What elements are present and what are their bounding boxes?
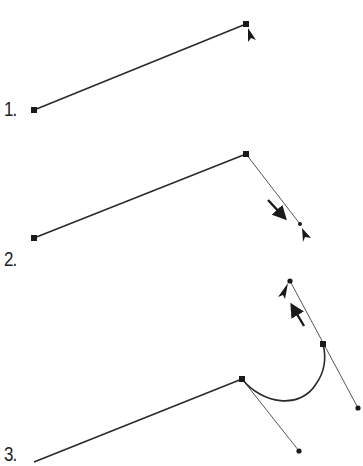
anchor-point[interactable] bbox=[239, 376, 245, 382]
direction-handle-point[interactable] bbox=[296, 448, 301, 453]
cursor-arrow-icon bbox=[278, 283, 288, 299]
panel-1 bbox=[31, 21, 256, 113]
anchor-point[interactable] bbox=[31, 235, 37, 241]
step-label-1: 1. bbox=[4, 98, 16, 121]
drag-direction-arrow-icon bbox=[294, 309, 304, 326]
direction-handle-point[interactable] bbox=[287, 278, 292, 283]
path-segment bbox=[34, 24, 246, 110]
pen-tool-diagram bbox=[0, 0, 363, 466]
anchor-point[interactable] bbox=[243, 151, 249, 157]
direction-handle-line bbox=[246, 154, 300, 224]
step-label-3: 3. bbox=[4, 443, 16, 466]
cursor-arrow-icon bbox=[248, 28, 256, 42]
path-segment bbox=[34, 379, 242, 462]
anchor-point[interactable] bbox=[320, 341, 326, 347]
panel-2 bbox=[31, 151, 311, 242]
drag-direction-arrow-icon bbox=[268, 200, 282, 215]
anchor-point[interactable] bbox=[31, 107, 37, 113]
step-label-2: 2. bbox=[4, 248, 16, 271]
direction-handle-point[interactable] bbox=[298, 222, 302, 226]
direction-handle-point[interactable] bbox=[355, 405, 360, 410]
anchor-point[interactable] bbox=[243, 21, 249, 27]
direction-handle-line bbox=[242, 379, 299, 451]
cursor-arrow-icon bbox=[302, 228, 311, 242]
path-segment bbox=[34, 154, 246, 238]
panel-3 bbox=[34, 278, 361, 462]
curve-segment bbox=[242, 344, 325, 401]
